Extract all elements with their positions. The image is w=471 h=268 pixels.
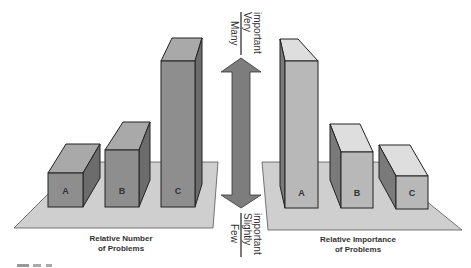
double-headed-arrow-icon	[221, 58, 261, 208]
right-bar-a: A	[280, 39, 318, 208]
left-bar-c-label: C	[175, 186, 182, 196]
left-bar-c: C	[161, 38, 202, 207]
right-caption-line1: Relative Importance	[320, 235, 397, 244]
few-label: Few	[229, 224, 240, 244]
scale-arrow: Many Very important Few Slightly importa…	[221, 12, 263, 257]
many-label: Many	[229, 21, 240, 45]
figure-canvas: A B C Relative Number of Problems Many V…	[0, 0, 471, 268]
right-bar-a-label: A	[298, 188, 305, 198]
slightly-label: Slightly	[242, 213, 253, 245]
important-bottom-label: important	[252, 213, 263, 255]
left-bar-b-label: B	[119, 186, 126, 196]
left-panel: A B C Relative Number of Problems	[14, 38, 218, 253]
right-panel: A B C Relative Importance of Problems	[262, 39, 462, 254]
important-top-label: important	[252, 12, 263, 54]
very-label: Very	[242, 12, 253, 32]
right-bar-b-label: B	[354, 188, 361, 198]
cropped-figure-caption	[17, 264, 52, 267]
left-caption-line1: Relative Number	[89, 234, 152, 243]
right-bar-b: B	[330, 124, 373, 208]
right-caption-line2: of Problems	[335, 245, 382, 254]
left-bar-a-label: A	[62, 186, 69, 196]
left-caption-line2: of Problems	[98, 244, 145, 253]
right-bar-c-label: C	[409, 188, 416, 198]
left-bar-b: B	[105, 122, 150, 207]
